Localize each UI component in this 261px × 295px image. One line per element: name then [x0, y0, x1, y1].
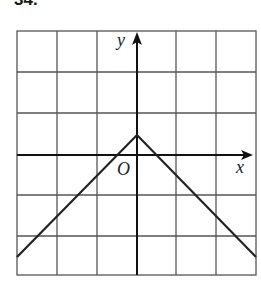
y-axis-label: y [115, 30, 125, 50]
origin-label: O [117, 159, 130, 179]
coordinate-graph: y x O [0, 0, 261, 295]
axes [17, 40, 246, 275]
x-axis-label: x [235, 157, 244, 177]
